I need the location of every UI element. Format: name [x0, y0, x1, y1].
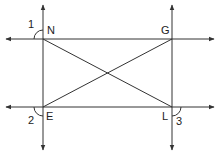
angle-label-3: 3 — [176, 115, 182, 127]
point-label-e: E — [46, 110, 53, 122]
angle-arc-1 — [34, 30, 43, 39]
angle-arc-2 — [34, 107, 43, 116]
geometry-diagram: N G E L 1 2 3 — [0, 0, 221, 157]
angle-label-2: 2 — [28, 114, 34, 126]
point-label-n: N — [47, 24, 55, 36]
angle-label-1: 1 — [28, 18, 34, 30]
point-label-l: L — [162, 110, 168, 122]
point-label-g: G — [161, 24, 170, 36]
